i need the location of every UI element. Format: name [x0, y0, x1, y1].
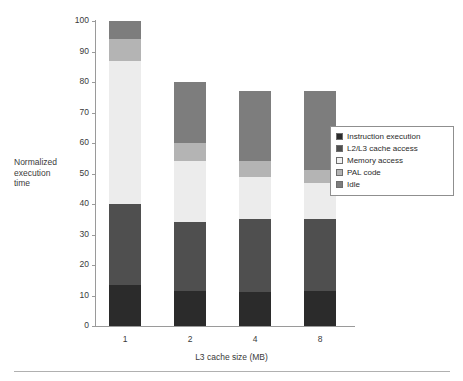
y-axis-tick-mark	[92, 265, 95, 266]
legend-item-label: Idle	[347, 180, 360, 189]
bar-segment	[304, 291, 336, 326]
legend-item-label: PAL code	[347, 168, 381, 177]
y-axis-tick-mark	[92, 52, 95, 53]
bar-segment	[174, 82, 206, 143]
y-axis-tick: 50	[61, 174, 95, 175]
y-axis-tick-label: 60	[80, 137, 89, 147]
legend-item-label: L2/L3 cache access	[347, 144, 418, 153]
bar-segment	[239, 219, 271, 292]
legend-item: PAL code	[336, 167, 448, 178]
y-axis-label-line-3: time	[14, 178, 84, 189]
x-axis-line	[95, 326, 355, 327]
legend-item: L2/L3 cache access	[336, 143, 448, 154]
bar-segment	[174, 291, 206, 326]
y-axis-tick-mark	[92, 143, 95, 144]
x-axis-tick-label: 8	[300, 334, 340, 344]
y-axis-tick-label: 30	[80, 229, 89, 239]
legend-item: Instruction execution	[336, 131, 448, 142]
bar-1mb	[109, 21, 141, 326]
bar-segment	[304, 219, 336, 291]
x-axis-tick-label: 4	[235, 334, 275, 344]
y-axis-tick-label: 100	[75, 15, 89, 25]
x-axis-tick-label: 1	[105, 334, 145, 344]
y-axis-tick: 60	[61, 143, 95, 144]
y-axis-tick-mark	[92, 21, 95, 22]
figure-stacked-bar-chart: Normalized execution time 01020304050607…	[0, 0, 463, 381]
bar-segment	[109, 285, 141, 326]
y-axis-tick-label: 0	[84, 320, 89, 330]
y-axis-tick-label: 70	[80, 107, 89, 117]
legend-item-label: Instruction execution	[347, 132, 420, 141]
bar-segment	[109, 39, 141, 60]
y-axis-tick-mark	[92, 296, 95, 297]
y-axis-tick: 30	[61, 235, 95, 236]
bar-segment	[174, 143, 206, 161]
bar-segment	[239, 91, 271, 161]
legend-swatch-icon	[336, 169, 343, 176]
bar-segment	[174, 161, 206, 222]
y-axis-tick: 70	[61, 113, 95, 114]
y-axis-tick: 90	[61, 52, 95, 53]
bar-segment	[109, 204, 141, 285]
y-axis-tick-label: 50	[80, 168, 89, 178]
bar-segment	[174, 222, 206, 291]
bar-segment	[239, 161, 271, 176]
chart-legend: Instruction executionL2/L3 cache accessM…	[330, 126, 454, 196]
y-axis-tick-label: 10	[80, 290, 89, 300]
bar-segment	[239, 292, 271, 326]
y-axis-label-line-1: Normalized	[14, 157, 84, 168]
y-axis-tick: 10	[61, 296, 95, 297]
legend-swatch-icon	[336, 145, 343, 152]
y-axis-tick: 80	[61, 82, 95, 83]
y-axis-tick-label: 90	[80, 46, 89, 56]
y-axis-tick: 0	[61, 326, 95, 327]
y-axis-tick-label: 40	[80, 198, 89, 208]
x-axis-label: L3 cache size (MB)	[0, 352, 463, 362]
legend-item-label: Memory access	[347, 156, 403, 165]
y-axis-tick-mark	[92, 204, 95, 205]
bar-segment	[109, 61, 141, 204]
bar-2mb	[174, 21, 206, 326]
y-axis-tick-mark	[92, 326, 95, 327]
y-axis-tick-label: 20	[80, 259, 89, 269]
footer-rule	[14, 371, 450, 372]
y-axis-tick-mark	[92, 174, 95, 175]
y-axis-tick-mark	[92, 82, 95, 83]
bar-segment	[239, 177, 271, 220]
y-axis-tick-mark	[92, 235, 95, 236]
bar-4mb	[239, 21, 271, 326]
y-axis-tick: 40	[61, 204, 95, 205]
x-axis-tick-label: 2	[170, 334, 210, 344]
legend-swatch-icon	[336, 133, 343, 140]
legend-swatch-icon	[336, 157, 343, 164]
plot-area: 0102030405060708090100	[95, 21, 350, 326]
legend-swatch-icon	[336, 181, 343, 188]
y-axis-tick: 20	[61, 265, 95, 266]
y-axis-tick-mark	[92, 113, 95, 114]
legend-item: Memory access	[336, 155, 448, 166]
y-axis-tick: 100	[61, 21, 95, 22]
y-axis-tick-label: 80	[80, 76, 89, 86]
legend-item: Idle	[336, 179, 448, 190]
bar-segment	[109, 21, 141, 39]
